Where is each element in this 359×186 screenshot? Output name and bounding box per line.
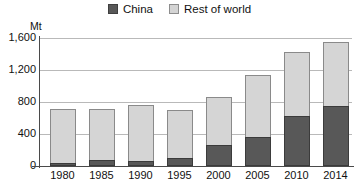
- bar-segment-china-2010[interactable]: [284, 116, 310, 166]
- bar-segment-rest-of-world-1990[interactable]: [128, 105, 154, 161]
- bar-segment-china-1985[interactable]: [89, 160, 115, 166]
- plot-area: [40, 38, 352, 166]
- legend-label-rest-of-world: Rest of world: [184, 3, 251, 15]
- legend-label-china: China: [123, 3, 153, 15]
- x-axis-line: [32, 166, 354, 167]
- bar-segment-rest-of-world-1995[interactable]: [167, 110, 193, 158]
- legend-item-china: China: [108, 3, 153, 15]
- chart-legend: China Rest of world: [0, 3, 359, 15]
- bar-1995[interactable]: [167, 110, 193, 166]
- bar-segment-china-1990[interactable]: [128, 161, 154, 166]
- bar-segment-rest-of-world-2005[interactable]: [245, 75, 271, 137]
- bar-1990[interactable]: [128, 105, 154, 166]
- bar-segment-rest-of-world-2000[interactable]: [206, 97, 232, 145]
- y-tick-label-800: 800: [18, 96, 36, 107]
- gridline-1600: [40, 38, 352, 39]
- chart-figure: China Rest of world Mt 04008001,2001,600…: [0, 0, 359, 186]
- bar-segment-rest-of-world-2010[interactable]: [284, 52, 310, 117]
- bar-segment-rest-of-world-2014[interactable]: [323, 42, 349, 106]
- bar-2000[interactable]: [206, 97, 232, 166]
- bar-segment-china-2014[interactable]: [323, 106, 349, 166]
- bar-2010[interactable]: [284, 52, 310, 166]
- bar-segment-china-1980[interactable]: [50, 163, 76, 166]
- y-tick-label-400: 400: [18, 128, 36, 139]
- bar-1985[interactable]: [89, 109, 115, 166]
- y-tick-label-1200: 1,200: [8, 64, 36, 75]
- bar-2005[interactable]: [245, 75, 271, 166]
- bar-segment-rest-of-world-1985[interactable]: [89, 109, 115, 160]
- bar-segment-china-2005[interactable]: [245, 137, 271, 166]
- bar-2014[interactable]: [323, 42, 349, 166]
- bar-1980[interactable]: [50, 109, 76, 166]
- bar-segment-rest-of-world-1980[interactable]: [50, 109, 76, 163]
- y-axis-tick-labels: 04008001,2001,600: [0, 0, 36, 186]
- legend-swatch-china-icon: [108, 4, 118, 14]
- legend-item-rest-of-world: Rest of world: [169, 3, 251, 15]
- y-tick-label-1600: 1,600: [8, 32, 36, 43]
- bar-segment-china-2000[interactable]: [206, 145, 232, 166]
- bar-segment-china-1995[interactable]: [167, 158, 193, 166]
- x-tick-label-2014: 2014: [313, 169, 359, 181]
- legend-swatch-rest-of-world-icon: [169, 4, 179, 14]
